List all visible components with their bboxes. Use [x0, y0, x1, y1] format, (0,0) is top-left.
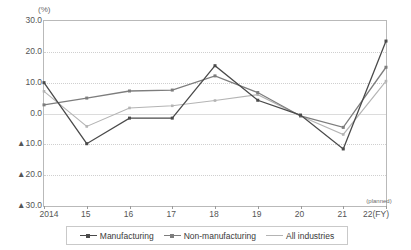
data-point — [171, 89, 174, 92]
x-axis-tick-label: 22(FY) — [363, 209, 389, 219]
data-point — [385, 66, 388, 69]
planned-annotation: (planned) — [366, 198, 391, 204]
data-point — [385, 40, 388, 43]
legend-swatch-icon — [266, 232, 283, 240]
data-point — [128, 107, 131, 110]
legend-item-all-industries[interactable]: All industries — [266, 231, 334, 241]
data-point — [85, 125, 88, 128]
series-line-manufacturing — [44, 41, 386, 149]
legend-label: Non-manufacturing — [184, 231, 256, 241]
x-axis-tick-label: 16 — [124, 209, 133, 219]
legend-label: All industries — [286, 231, 334, 241]
y-axis-tick-label: 10.0 — [25, 77, 42, 87]
data-point — [385, 80, 388, 83]
plot-area — [43, 20, 387, 207]
y-axis-tick-label: 0.0 — [30, 108, 42, 118]
data-point — [85, 142, 88, 145]
y-axis-tick-label: ▲10.0 — [17, 138, 42, 148]
x-axis-tick-label: 21 — [338, 209, 347, 219]
x-axis-tick-label: 20 — [295, 209, 304, 219]
data-point — [256, 91, 259, 94]
legend-item-non-manufacturing[interactable]: Non-manufacturing — [164, 231, 256, 241]
legend-item-manufacturing[interactable]: Manufacturing — [80, 231, 154, 241]
legend-swatch-icon — [164, 232, 181, 240]
data-point — [171, 117, 174, 120]
data-point — [214, 99, 217, 102]
chart-figure: (%) 30.020.010.00.0▲10.0▲20.0▲30.0 20141… — [0, 0, 411, 250]
y-axis-tick-label: ▲30.0 — [17, 200, 42, 210]
x-axis-tick-label: 17 — [167, 209, 176, 219]
series-line-all-industries — [44, 81, 386, 134]
data-point — [342, 133, 345, 136]
x-axis-tick-label: 18 — [209, 209, 218, 219]
data-point — [128, 117, 131, 120]
x-axis-tick-label: 2014 — [40, 209, 59, 219]
y-axis-tick-label: 20.0 — [25, 46, 42, 56]
data-point — [85, 97, 88, 100]
data-point — [214, 64, 217, 67]
x-axis-tick-label: 19 — [252, 209, 261, 219]
data-point — [128, 89, 131, 92]
data-point — [43, 81, 46, 84]
data-point — [171, 104, 174, 107]
y-axis-tick-label: ▲20.0 — [17, 169, 42, 179]
data-point — [342, 147, 345, 150]
legend-label: Manufacturing — [100, 231, 154, 241]
x-axis-tick-label: 15 — [81, 209, 90, 219]
data-point — [214, 74, 217, 77]
y-axis-tick-labels: 30.020.010.00.0▲10.0▲20.0▲30.0 — [0, 0, 42, 250]
data-point — [43, 90, 46, 93]
data-point — [299, 114, 302, 117]
legend-swatch-icon — [80, 232, 97, 240]
series-lines — [44, 21, 386, 206]
legend: ManufacturingNon-manufacturingAll indust… — [66, 226, 348, 245]
y-axis-tick-label: 30.0 — [25, 15, 42, 25]
data-point — [342, 126, 345, 129]
data-point — [256, 99, 259, 102]
data-point — [43, 103, 46, 106]
